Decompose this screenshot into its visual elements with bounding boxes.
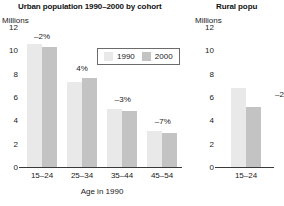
bar-2000-15-24 xyxy=(42,47,57,168)
legend-swatch-2000-icon xyxy=(142,52,151,61)
bar-1990-25-34 xyxy=(67,82,82,168)
x-tick-45-54: 45–54 xyxy=(142,171,182,180)
y-tick-rural-0: 0 xyxy=(210,164,214,172)
x-tick-labels-urban: 15–24 25–34 35–44 45–54 xyxy=(22,171,182,180)
pct-label-rural-15-24: –24% xyxy=(275,91,284,99)
y-tick-4: 4 xyxy=(14,117,18,125)
x-axis-baseline-rural xyxy=(215,167,274,168)
x-tick-15-24: 15–24 xyxy=(22,171,62,180)
y-tick-rural-10: 10 xyxy=(205,47,214,55)
bar-1990-15-24 xyxy=(27,44,42,168)
y-tick-8: 8 xyxy=(14,71,18,79)
bar-groups-rural: –24% xyxy=(218,28,274,168)
bar-2000-45-54 xyxy=(162,133,177,168)
y-tick-rural-4: 4 xyxy=(210,117,214,125)
y-tick-6: 6 xyxy=(14,94,18,102)
bar-1990-rural-15-24 xyxy=(231,88,246,169)
bar-group-rural-15-24: –24% xyxy=(218,28,274,168)
page-title: Urban population 1990–2000 by cohort xyxy=(18,2,162,11)
bar-1990-35-44 xyxy=(107,109,122,169)
dual-bar-chart-figure: Urban population 1990–2000 by cohort Mil… xyxy=(0,0,284,206)
y-tick-rural-2: 2 xyxy=(210,141,214,149)
x-axis-title: Age in 1990 xyxy=(22,187,182,196)
page-title-rural: Rural popu xyxy=(216,2,257,11)
legend-label-2000: 2000 xyxy=(155,53,173,61)
bar-2000-35-44 xyxy=(122,111,137,168)
x-tick-rural-15-24: 15–24 xyxy=(218,171,274,180)
legend-item-2000: 2000 xyxy=(142,52,173,61)
pct-label-15-24: –2% xyxy=(34,33,50,41)
plot-area-rural: 12 10 8 6 4 2 0 –24% xyxy=(218,28,274,168)
bar-1990-45-54 xyxy=(147,131,162,168)
legend-swatch-1990-icon xyxy=(104,52,113,61)
y-tick-rural-8: 8 xyxy=(210,71,214,79)
pct-label-25-34: 4% xyxy=(76,65,88,73)
legend-item-1990: 1990 xyxy=(104,52,135,61)
pct-label-45-54: –7% xyxy=(155,118,171,126)
pct-label-35-44: –3% xyxy=(115,96,131,104)
y-tick-0: 0 xyxy=(14,164,18,172)
rural-population-chart-panel: Rural popu Millions 12 10 8 6 4 2 0 –24%… xyxy=(192,0,284,206)
urban-population-chart-panel: Urban population 1990–2000 by cohort Mil… xyxy=(0,0,192,206)
y-tick-rural-12: 12 xyxy=(205,24,214,32)
bar-group-25-34: 4% xyxy=(62,28,102,168)
bar-2000-25-34 xyxy=(82,78,97,168)
x-tick-35-44: 35–44 xyxy=(102,171,142,180)
y-tick-2: 2 xyxy=(14,141,18,149)
y-tick-12: 12 xyxy=(9,24,18,32)
y-tick-10: 10 xyxy=(9,47,18,55)
bar-2000-rural-15-24 xyxy=(246,107,261,168)
y-tick-rural-6: 6 xyxy=(210,94,214,102)
x-tick-labels-rural: 15–24 xyxy=(218,171,274,180)
x-axis-baseline-urban xyxy=(19,167,182,168)
bar-group-15-24: –2% xyxy=(22,28,62,168)
legend-label-1990: 1990 xyxy=(117,53,135,61)
chart-legend: 1990 2000 xyxy=(97,48,180,65)
x-tick-25-34: 25–34 xyxy=(62,171,102,180)
